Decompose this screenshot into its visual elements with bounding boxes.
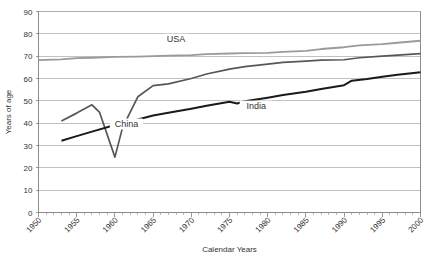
x-tick-label-1950: 1950: [24, 215, 43, 234]
series-label-china: China: [115, 119, 139, 129]
y-tick-label-50: 50: [24, 97, 33, 106]
y-tick-label-80: 80: [24, 30, 33, 39]
x-tick-label-2000: 2000: [406, 215, 425, 234]
y-tick-label-0: 0: [28, 209, 33, 218]
y-tick-label-30: 30: [24, 142, 33, 151]
x-tick-label-1970: 1970: [177, 215, 196, 234]
y-tick-label-90: 90: [24, 8, 33, 17]
x-tick-label-1975: 1975: [215, 215, 234, 234]
y-tick-label-60: 60: [24, 75, 33, 84]
y-axis-title: Years of age: [4, 89, 13, 134]
line-chart: 0102030405060708090195019551960196519701…: [0, 0, 438, 265]
x-tick-label-1980: 1980: [254, 215, 273, 234]
x-tick-label-1955: 1955: [63, 215, 82, 234]
chart-canvas: 0102030405060708090195019551960196519701…: [0, 0, 438, 265]
x-tick-label-1995: 1995: [368, 215, 387, 234]
x-axis-title: Calendar Years: [202, 245, 257, 254]
y-tick-label-10: 10: [24, 186, 33, 195]
y-tick-label-70: 70: [24, 52, 33, 61]
y-tick-label-20: 20: [24, 164, 33, 173]
x-tick-label-1960: 1960: [101, 215, 120, 234]
x-tick-label-1965: 1965: [139, 215, 158, 234]
series-label-usa: USA: [167, 34, 186, 44]
x-tick-label-1990: 1990: [330, 215, 349, 234]
x-tick-label-1985: 1985: [292, 215, 311, 234]
y-tick-label-40: 40: [24, 119, 33, 128]
series-label-india: India: [246, 101, 266, 111]
